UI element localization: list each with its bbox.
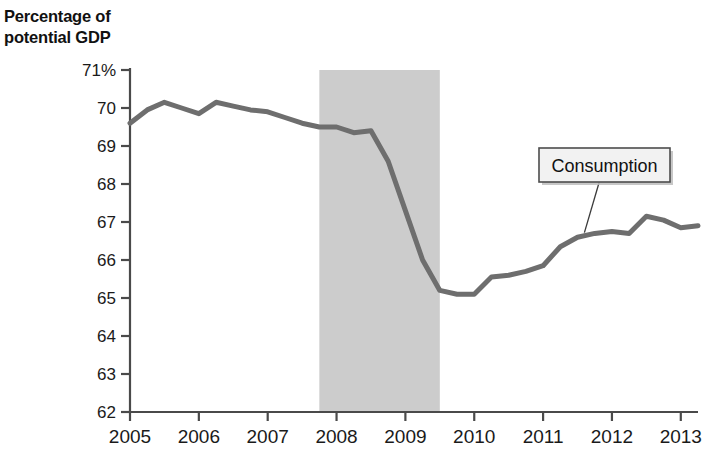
- callout-leader-line: [584, 182, 599, 233]
- chart-plot-area: 71%706968676665646362 200520062007200820…: [0, 0, 705, 449]
- y-tick-label: 64: [97, 327, 116, 346]
- y-tick-label: 68: [97, 175, 116, 194]
- x-tick-label: 2006: [178, 426, 220, 447]
- x-tick-label: 2010: [453, 426, 495, 447]
- recession-shading: [319, 70, 439, 412]
- y-tick-label: 62: [97, 403, 116, 422]
- y-tick-label: 63: [97, 365, 116, 384]
- y-tick-label: 69: [97, 137, 116, 156]
- x-axis-tick-labels: 200520062007200820092010201120122013: [109, 426, 702, 447]
- chart-container: Percentage of potential GDP 71%706968676…: [0, 0, 705, 449]
- callout-label: Consumption: [551, 156, 657, 176]
- x-tick-label: 2007: [247, 426, 289, 447]
- y-tick-label: 71%: [82, 61, 116, 80]
- x-tick-label: 2005: [109, 426, 151, 447]
- y-tick-label: 65: [97, 289, 116, 308]
- x-tick-label: 2013: [660, 426, 702, 447]
- y-tick-label: 67: [97, 213, 116, 232]
- y-axis-tick-labels: 71%706968676665646362: [82, 61, 116, 422]
- x-tick-label: 2008: [315, 426, 357, 447]
- x-tick-label: 2011: [523, 426, 564, 447]
- x-tick-label: 2009: [384, 426, 426, 447]
- y-tick-label: 66: [97, 251, 116, 270]
- x-tick-label: 2012: [591, 426, 633, 447]
- y-tick-label: 70: [97, 99, 116, 118]
